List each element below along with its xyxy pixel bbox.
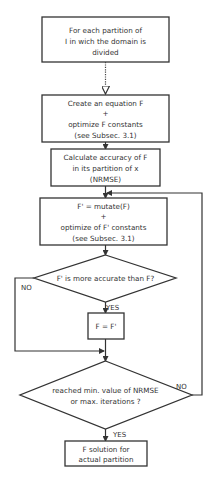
node-decision2-line-2: or max. iterations ? <box>70 397 140 406</box>
node-start-line-2: I in wich the domain is <box>65 37 146 46</box>
flowchart: For each partition of I in wich the doma… <box>0 0 214 484</box>
node-decision1: F' is more accurate than F? <box>34 255 176 302</box>
node-start-line-3: divided <box>92 48 118 57</box>
node-mutate-line-4: (see Subsec. 3.1) <box>72 234 134 243</box>
node-calc: Calculate accuracy of F in its partition… <box>51 149 160 186</box>
node-mutate-line-3: optimize of F' constants <box>61 223 147 232</box>
label-d1-no: NO <box>21 284 32 292</box>
label-d2-yes: YES <box>112 431 127 439</box>
node-assign-text: F = F' <box>96 322 117 331</box>
node-calc-line-3: (NRMSE) <box>90 175 121 184</box>
node-mutate-line-1: F' = mutate(F) <box>77 202 130 211</box>
node-create: Create an equation F + optimize F consta… <box>42 95 169 142</box>
node-decision2-line-1: reached min. value of NRMSE <box>52 386 159 395</box>
node-decision2: reached min. value of NRMSE or max. iter… <box>20 361 192 429</box>
node-decision1-text: F' is more accurate than F? <box>57 274 155 283</box>
node-start: For each partition of I in wich the doma… <box>42 17 169 62</box>
label-d2-no: NO <box>176 383 187 391</box>
label-d1-yes: YES <box>105 304 120 312</box>
node-create-line-4: (see Subsec. 3.1) <box>74 131 136 140</box>
node-mutate: F' = mutate(F) + optimize of F' constant… <box>40 198 167 245</box>
node-assign: F = F' <box>88 313 124 339</box>
node-end-line-2: actual partition <box>79 455 134 464</box>
node-mutate-line-2: + <box>100 212 106 221</box>
node-end-line-1: F solution for <box>82 445 129 454</box>
node-create-line-3: optimize F constants <box>68 120 143 129</box>
node-create-line-1: Create an equation F <box>68 99 144 108</box>
node-end: F solution for actual partition <box>65 441 147 466</box>
node-calc-line-1: Calculate accuracy of F <box>64 153 148 162</box>
node-create-line-2: + <box>102 109 108 118</box>
node-start-line-1: For each partition of <box>69 26 142 35</box>
node-calc-line-2: in its partition of x <box>73 164 140 173</box>
